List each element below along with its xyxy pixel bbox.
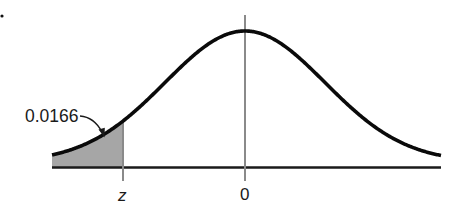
- z-tick-label: z: [117, 186, 127, 205]
- zero-tick-label: 0: [240, 185, 249, 204]
- corner-dot: [0, 14, 3, 17]
- normal-distribution-chart: 0.0166 z 0: [0, 0, 451, 209]
- area-label: 0.0166: [25, 106, 79, 126]
